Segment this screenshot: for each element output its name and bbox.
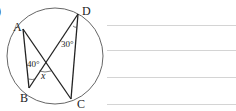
circle-diagram: ) A B C D 40° 30° x [0, 0, 236, 111]
angle-label-30: 30° [61, 39, 74, 49]
answer-line-1[interactable] [107, 25, 236, 26]
geometry-problem: ) A B C D 40° 30° x [0, 0, 236, 111]
point-label-B: B [20, 91, 28, 105]
angle-label-x: x [40, 70, 46, 81]
angle-label-40: 40° [27, 59, 40, 69]
point-label-C: C [77, 97, 85, 111]
point-label-A: A [13, 20, 22, 34]
angle-arc-40 [28, 79, 35, 80]
point-label-D: D [82, 4, 91, 18]
problem-number-fragment: ) [0, 4, 1, 18]
answer-line-2[interactable] [107, 50, 236, 51]
answer-line-4[interactable] [107, 104, 236, 105]
chord-BD [29, 14, 78, 88]
answer-line-3[interactable] [107, 77, 236, 78]
